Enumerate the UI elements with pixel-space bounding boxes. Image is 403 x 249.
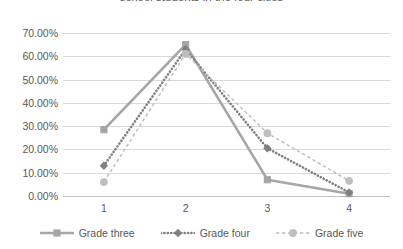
x-tick-label: 1 <box>84 203 124 214</box>
legend-label: Grade three <box>79 227 135 239</box>
legend-swatch-diamond-icon <box>161 227 195 239</box>
data-point-marker <box>263 129 271 137</box>
legend-item-grade-five[interactable]: Grade five <box>276 227 363 239</box>
y-tick-label: 40.00% <box>0 98 58 109</box>
series-layer <box>63 33 390 196</box>
data-point-marker <box>182 50 190 58</box>
series-line <box>104 54 349 182</box>
data-point-marker <box>100 126 107 133</box>
y-tick-label: 60.00% <box>0 51 58 62</box>
data-point-marker <box>264 176 271 183</box>
legend-label: Grade five <box>315 227 363 239</box>
data-point-marker <box>100 178 108 186</box>
legend-swatch-square-icon <box>40 227 74 239</box>
legend-item-grade-three[interactable]: Grade three <box>40 227 135 239</box>
x-tick-label: 3 <box>247 203 287 214</box>
series-line <box>104 49 349 192</box>
x-axis-line <box>63 196 390 197</box>
y-tick-label: 30.00% <box>0 121 58 132</box>
legend-swatch-circle-icon <box>276 227 310 239</box>
series-grade-four <box>100 45 354 197</box>
y-tick-label: 10.00% <box>0 168 58 179</box>
y-tick-label: 0.00% <box>0 191 58 202</box>
x-tick-label: 4 <box>329 203 369 214</box>
y-tick-label: 70.00% <box>0 28 58 39</box>
data-point-marker <box>345 177 353 185</box>
x-tick-label: 2 <box>166 203 206 214</box>
y-tick-label: 20.00% <box>0 144 58 155</box>
chart-title: school students in the four cities <box>0 0 403 5</box>
line-chart: school students in the four cities 0.00%… <box>0 0 403 249</box>
legend-label: Grade four <box>200 227 250 239</box>
y-tick-label: 50.00% <box>0 75 58 86</box>
chart-legend: Grade threeGrade fourGrade five <box>0 227 403 239</box>
legend-item-grade-four[interactable]: Grade four <box>161 227 250 239</box>
